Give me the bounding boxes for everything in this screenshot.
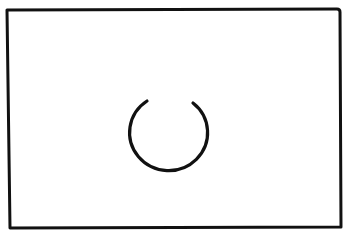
loading-spinner-icon (130, 101, 208, 171)
container-box (7, 9, 341, 228)
sketch-canvas (0, 0, 347, 231)
